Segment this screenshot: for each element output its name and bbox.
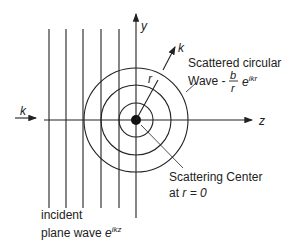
z-axis-label: z — [258, 114, 265, 128]
center-leader-line — [141, 125, 183, 168]
scattered-prefix: Wave - — [188, 74, 226, 88]
scattering-diagram: y z k k r Scattered circular Wave - b r … — [0, 0, 303, 250]
incident-k-label: k — [20, 104, 27, 118]
scattered-label-line2: Wave - — [188, 74, 226, 88]
radius-line — [136, 80, 158, 120]
scattered-frac-den: r — [231, 82, 236, 94]
y-axis-label: y — [140, 19, 148, 33]
scattered-k-arrow — [163, 47, 175, 70]
center-label-line2: at r = 0 — [169, 186, 207, 200]
scattered-frac-num: b — [230, 69, 236, 81]
scattered-k-label: k — [178, 41, 185, 55]
radius-label: r — [148, 72, 153, 86]
incident-exp-sup: ikz — [112, 225, 122, 234]
scattered-exp-sup: ikr — [249, 74, 258, 83]
incident-prefix: plane wave — [41, 226, 105, 240]
incident-label-line1: incident — [41, 208, 83, 222]
center-label-line1: Scattering Center — [169, 170, 262, 184]
scattered-label-line1: Scattered circular — [188, 56, 281, 70]
center-math: r = 0 — [182, 186, 207, 200]
scattered-exp: eikr — [242, 74, 257, 89]
incident-label-line2: plane wave eikz — [41, 225, 122, 240]
center-prefix: at — [169, 186, 182, 200]
